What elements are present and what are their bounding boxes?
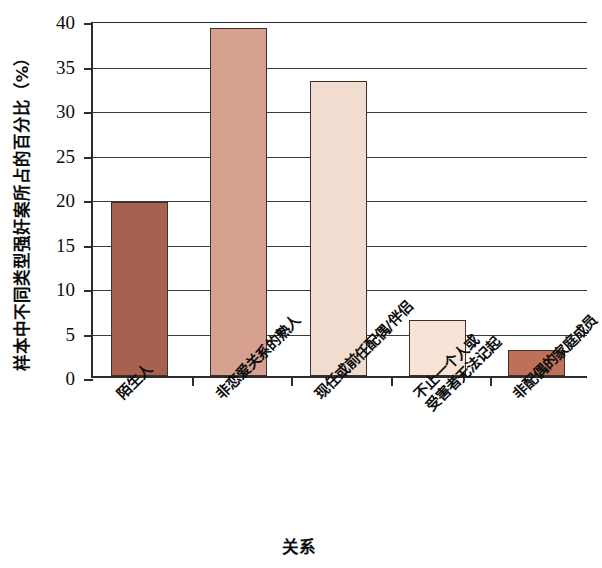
x-axis-tick (192, 376, 194, 386)
y-axis-tick (84, 335, 93, 337)
y-axis-tick (84, 379, 93, 381)
y-axis-tick (84, 112, 93, 114)
y-gridline (93, 68, 587, 69)
y-axis-tick-label: 40 (35, 13, 75, 32)
bar[interactable] (111, 202, 168, 376)
y-axis-tick-label: 35 (35, 58, 75, 77)
y-axis-tick-label: 0 (35, 369, 75, 388)
plot-area: 0510152025303540 (91, 22, 587, 378)
y-axis-tick-label: 15 (35, 236, 75, 255)
y-axis-tick-label: 20 (35, 191, 75, 210)
y-axis-tick-label: 30 (35, 102, 75, 121)
x-axis-tick (490, 376, 492, 386)
bar[interactable] (210, 28, 267, 376)
y-axis-tick (84, 23, 93, 25)
x-axis-title: 关系 (0, 534, 598, 558)
bar[interactable] (310, 81, 367, 376)
y-axis-tick (84, 157, 93, 159)
y-axis-tick-label: 25 (35, 147, 75, 166)
y-axis-tick (84, 68, 93, 70)
y-axis-tick (84, 201, 93, 203)
y-axis-title-text: 样本中不同类型强奸案所占的百分比（%） (9, 49, 33, 372)
y-axis-tick-label: 5 (35, 325, 75, 344)
y-axis-tick (84, 246, 93, 248)
x-axis-tick (291, 376, 293, 386)
x-axis-tick (391, 376, 393, 386)
y-axis-tick (84, 290, 93, 292)
y-axis-tick-label: 10 (35, 280, 75, 299)
